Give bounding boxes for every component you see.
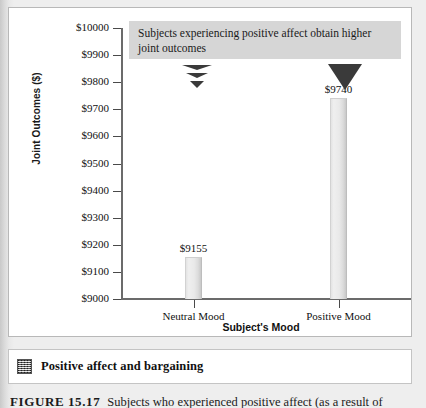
y-axis-tick-label: $9900 xyxy=(82,48,110,60)
caption-panel: Positive affect and bargaining xyxy=(8,349,412,384)
y-axis-tick-label: $9700 xyxy=(82,102,110,114)
y-axis-tick-mark xyxy=(113,55,121,56)
y-axis-tick-label: $9300 xyxy=(82,211,110,223)
y-axis-tick-label: $9000 xyxy=(82,292,110,304)
stacked-triangle-pointer xyxy=(182,65,212,97)
figure-note: FIGURE 15.17Subjects who experienced pos… xyxy=(10,392,420,408)
y-axis-tick-mark xyxy=(113,164,121,165)
y-axis-tick-label: $9200 xyxy=(82,238,110,250)
y-axis-tick-mark xyxy=(113,136,121,137)
callout-text: Subjects experiencing positive affect ob… xyxy=(138,26,392,55)
bar-chart: Joint Outcomes ($) $10000$9900$9800$9700… xyxy=(9,8,411,336)
halftone-thumbnail-icon xyxy=(17,359,32,374)
x-axis-title: Subject's Mood xyxy=(121,321,401,333)
figure-number: FIGURE 15.17 xyxy=(10,394,100,408)
y-axis-line xyxy=(121,28,123,300)
y-axis-tick-mark xyxy=(113,28,121,29)
y-axis-tick-mark xyxy=(113,82,121,83)
bar xyxy=(185,257,202,299)
y-axis-tick-mark xyxy=(113,191,121,192)
y-axis-tick-mark xyxy=(113,218,121,219)
caption-bar: Positive affect and bargaining xyxy=(9,350,411,383)
screenshot-page: Joint Outcomes ($) $10000$9900$9800$9700… xyxy=(0,0,426,408)
y-axis-tick-label: $9500 xyxy=(82,157,110,169)
y-axis-title: Joint Outcomes ($) xyxy=(31,44,42,194)
x-axis-tick-mark xyxy=(194,300,195,308)
x-axis-tick-mark xyxy=(339,300,340,308)
y-axis-tick-label: $9800 xyxy=(82,75,110,87)
y-axis-tick-mark xyxy=(113,272,121,273)
y-axis-tick-label: $10000 xyxy=(76,21,109,33)
bar xyxy=(330,98,347,299)
y-axis-tick-label: $9600 xyxy=(82,129,110,141)
y-axis-tick-label: $9100 xyxy=(82,265,110,277)
bar-value-label: $9155 xyxy=(144,242,244,254)
figure-note-text: Subjects who experienced positive affect… xyxy=(107,395,382,408)
solid-triangle-pointer xyxy=(328,64,362,92)
y-axis-tick-mark xyxy=(113,245,121,246)
y-axis-tick-mark xyxy=(113,299,121,300)
figure-panel: Joint Outcomes ($) $10000$9900$9800$9700… xyxy=(8,7,412,337)
y-axis-tick-mark xyxy=(113,109,121,110)
callout-box: Subjects experiencing positive affect ob… xyxy=(129,21,401,59)
y-axis-tick-label: $9400 xyxy=(82,184,110,196)
x-axis-line xyxy=(121,298,411,300)
caption-title: Positive affect and bargaining xyxy=(41,359,203,374)
